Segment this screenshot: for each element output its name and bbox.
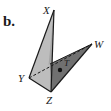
geometry-figure: b. X Y Z W T	[0, 0, 111, 111]
part-label: b.	[3, 13, 15, 29]
label-z: Z	[46, 94, 53, 106]
label-y: Y	[18, 72, 26, 84]
label-w: W	[94, 38, 104, 50]
point-t	[58, 68, 62, 72]
label-x: X	[42, 4, 51, 16]
